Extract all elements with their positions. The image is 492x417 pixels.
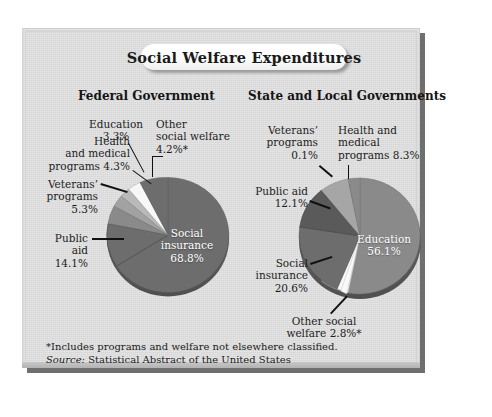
label-line: 56.1% [367, 245, 400, 257]
heading-state-local-governments: State and Local Governments [248, 89, 446, 103]
label-line: insurance [256, 269, 308, 281]
label-state-other-social-welfare: Other social welfare 2.8%* [272, 315, 376, 340]
label-line: Health and [338, 124, 397, 136]
source-text: Statistical Abstract of the United State… [88, 354, 291, 365]
label-state-education: Education 56.1% [348, 233, 420, 258]
label-line: 12.1% [275, 197, 308, 209]
label-line: programs 8.3% [338, 149, 419, 161]
label-line: Health [94, 135, 130, 147]
label-line: Education [89, 118, 143, 130]
heading-federal-government: Federal Government [78, 89, 215, 103]
label-line: Public aid [255, 185, 308, 197]
leader-line-other-bracket-stem [152, 156, 153, 177]
label-line: welfare 2.8%* [286, 327, 361, 339]
footnote: *Includes programs and welfare not elsew… [46, 341, 338, 352]
label-state-social-insurance: Social insurance 20.6% [230, 257, 308, 294]
label-state-health-medical: Health and medical programs 8.3% [338, 124, 434, 161]
label-line: programs [267, 136, 318, 148]
label-line: social welfare [156, 130, 230, 142]
label-line: Other [156, 118, 187, 130]
label-line: Education [357, 233, 411, 245]
label-line: insurance [161, 239, 213, 251]
label-line: programs 4.3% [49, 160, 130, 172]
label-line: 68.8% [170, 252, 203, 264]
source-label: Source: [46, 354, 85, 365]
label-federal-public-aid: Public aid 14.1% [20, 232, 88, 269]
label-line: programs [47, 190, 98, 202]
label-line: Veterans’ [48, 178, 98, 190]
label-federal-other-social-welfare: Other social welfare 4.2%* [156, 118, 248, 155]
label-line: 0.1% [291, 149, 318, 161]
label-line: 20.6% [275, 282, 308, 294]
label-state-public-aid: Public aid 12.1% [236, 185, 308, 210]
label-line: Social [276, 257, 308, 269]
label-line: 14.1% [55, 257, 88, 269]
label-line: aid [72, 244, 88, 256]
label-federal-veterans: Veterans’ programs 5.3% [24, 178, 98, 215]
title-pill: Social Welfare Expenditures [141, 44, 347, 70]
label-line: 4.2%* [156, 143, 188, 155]
label-state-veterans: Veterans’ programs 0.1% [244, 124, 318, 161]
label-line: Social [171, 227, 203, 239]
label-line: Other social [292, 315, 357, 327]
figure-root: Social Welfare Expenditures Federal Gove… [0, 0, 492, 417]
label-line: medical [338, 136, 380, 148]
label-line: Veterans’ [268, 124, 318, 136]
leader-line-state-health-medical [348, 165, 349, 179]
label-line: 5.3% [71, 203, 98, 215]
label-line: Public [55, 232, 88, 244]
label-federal-health-medical: Health and medical programs 4.3% [30, 135, 130, 172]
page-title: Social Welfare Expenditures [127, 49, 362, 66]
label-federal-social-insurance: Social insurance 68.8% [150, 227, 224, 264]
source-line: Source: Statistical Abstract of the Unit… [46, 354, 291, 365]
leader-line-other-bracket-top [153, 156, 163, 157]
leader-line-public-aid [92, 238, 124, 240]
label-line: and medical [65, 147, 130, 159]
